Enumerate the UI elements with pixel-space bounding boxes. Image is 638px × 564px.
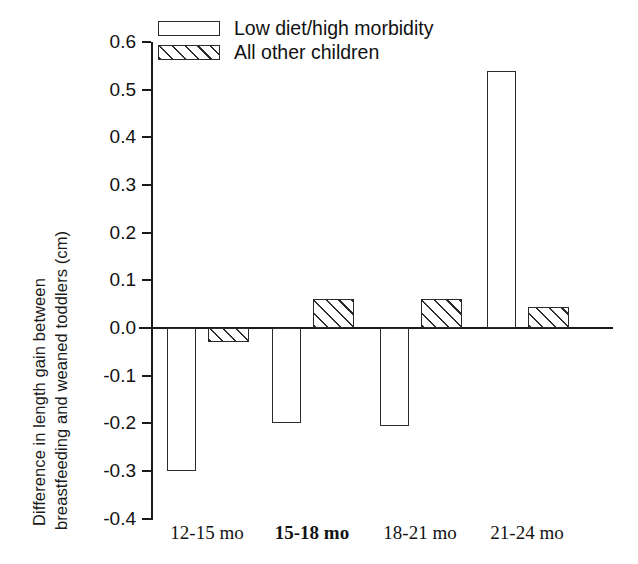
legend-swatch-open	[158, 21, 220, 36]
x-axis-tick-label: 15-18 mo	[275, 522, 349, 544]
legend: Low diet/high morbidity All other childr…	[158, 16, 488, 68]
legend-label-low-diet-high-morbidity: Low diet/high morbidity	[234, 17, 433, 40]
x-axis-tick-label: 21-24 mo	[490, 522, 563, 544]
x-axis-tick-label: 12-15 mo	[170, 522, 243, 544]
x-axis-tick-label: 18-21 mo	[383, 522, 456, 544]
legend-swatch-hatched	[158, 45, 220, 60]
legend-entry-low-diet-high-morbidity: Low diet/high morbidity	[158, 16, 433, 40]
chart-figure: Difference in length gain between breast…	[0, 0, 638, 564]
legend-entry-all-other-children: All other children	[158, 40, 379, 64]
legend-label-all-other-children: All other children	[234, 41, 379, 64]
x-axis-tick-labels: 12-15 mo15-18 mo18-21 mo21-24 mo	[0, 0, 638, 564]
